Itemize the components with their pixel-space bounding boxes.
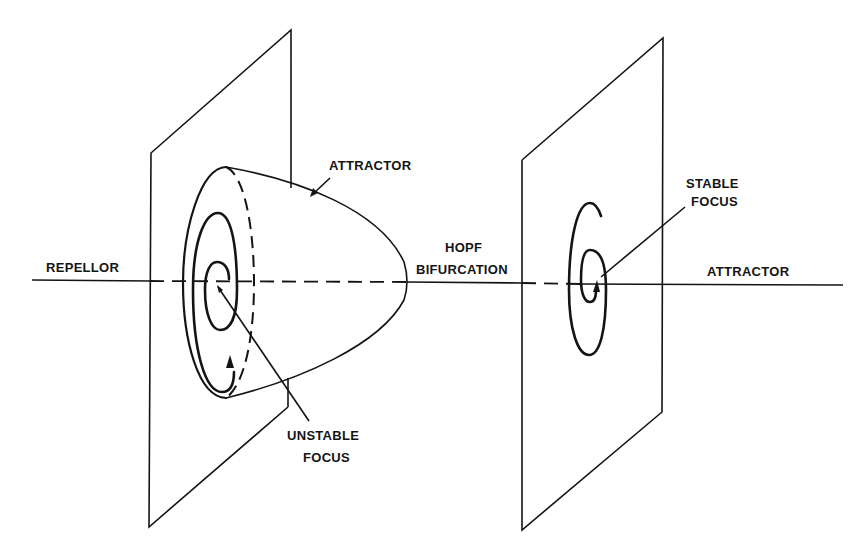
stable-spiral <box>569 203 606 355</box>
unstable-spiral <box>193 213 237 392</box>
unstable-focus-leader <box>218 287 309 421</box>
left-phase-plane <box>149 30 291 527</box>
label-hopf: HOPF <box>445 240 482 255</box>
unstable-arrow-icon <box>226 355 234 368</box>
axis-mid-solid <box>407 282 522 283</box>
stable-arrow-icon <box>593 280 600 292</box>
label-bifurcation: BIFURCATION <box>416 262 508 277</box>
label-stable-focus-1: STABLE <box>686 176 739 191</box>
hopf-bifurcation-diagram: REPELLOR ATTRACTOR UNSTABLE FOCUS HOPF B… <box>0 0 866 555</box>
axis-right-solid <box>580 284 843 285</box>
axis-dashed-cone <box>150 281 407 282</box>
axis-dashed-right-plane <box>522 283 580 284</box>
label-repellor: REPELLOR <box>46 260 119 275</box>
label-attractor-right: ATTRACTOR <box>707 264 790 279</box>
label-unstable-focus-1: UNSTABLE <box>287 428 359 443</box>
label-unstable-focus-2: FOCUS <box>303 450 350 465</box>
label-attractor-cone: ATTRACTOR <box>329 158 412 173</box>
stable-focus-leader <box>601 207 685 277</box>
label-stable-focus-2: FOCUS <box>691 194 738 209</box>
attractor-cone-leader <box>314 178 330 193</box>
axis-left-solid <box>32 280 150 281</box>
